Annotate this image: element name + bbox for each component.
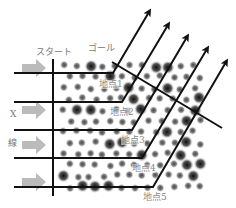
point-label-3: 地点3 <box>121 136 145 145</box>
axis-x-label: X <box>10 110 16 119</box>
input-arrow-icon <box>22 173 46 191</box>
axis-line-label: 線 <box>8 139 17 148</box>
goal-label: ゴール <box>88 44 115 53</box>
route-diagram <box>0 0 236 208</box>
input-arrows <box>22 59 46 191</box>
point-label-2: 地点2 <box>110 108 134 117</box>
point-label-5: 地点5 <box>143 193 167 202</box>
point-label-4: 地点4 <box>132 164 156 173</box>
point-label-1: 地点1 <box>99 80 123 89</box>
input-arrow-icon <box>22 59 46 77</box>
input-arrow-icon <box>22 101 46 119</box>
dot-field <box>56 59 207 193</box>
input-arrow-icon <box>22 136 46 154</box>
start-label: スタート <box>36 48 72 57</box>
